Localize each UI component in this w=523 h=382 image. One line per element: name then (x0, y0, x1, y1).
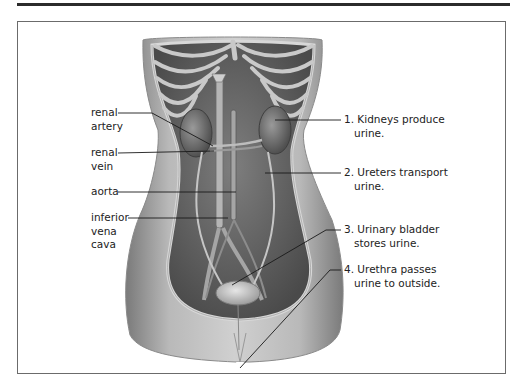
label-line: artery (91, 120, 123, 134)
label-line: stores urine. (344, 237, 439, 251)
label-line: urine. (344, 180, 448, 194)
label-line: urine to outside. (344, 277, 440, 291)
label-line: 4. Urethra passes (344, 263, 436, 275)
label-line: 3. Urinary bladder (344, 223, 439, 235)
label-line: 2. Ureters transport (344, 166, 448, 178)
label-line: vein (91, 160, 118, 174)
label-aorta: aorta (91, 185, 119, 199)
label-line: vena (91, 225, 129, 239)
label-renal-vein: renal vein (91, 146, 118, 173)
label-line: 1. Kidneys produce (344, 113, 445, 125)
label-line: renal (91, 146, 118, 160)
label-urethra: 4. Urethra passes urine to outside. (344, 263, 440, 290)
label-line: renal (91, 106, 123, 120)
label-line: cava (91, 238, 129, 252)
label-renal-artery: renal artery (91, 106, 123, 133)
urinary-bladder (216, 281, 260, 305)
label-bladder: 3. Urinary bladder stores urine. (344, 223, 439, 250)
label-line: inferior (91, 211, 129, 225)
label-inferior-vena-cava: inferior vena cava (91, 211, 129, 252)
label-ureters: 2. Ureters transport urine. (344, 166, 448, 193)
label-kidneys: 1. Kidneys produce urine. (344, 113, 445, 140)
label-line: aorta (91, 185, 119, 199)
label-line: urine. (344, 127, 445, 141)
